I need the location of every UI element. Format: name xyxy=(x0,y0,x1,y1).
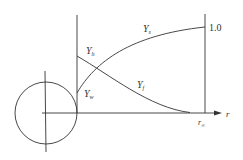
circle-vertical-axis xyxy=(45,71,46,152)
label-y-f: Yf xyxy=(137,79,146,91)
label-y-h: Yh xyxy=(86,45,95,57)
diagram-canvas: Ys Yh Yf Yw 1.0 r r∞ xyxy=(0,0,243,160)
label-y-w: Yw xyxy=(84,88,94,100)
curve-y-f xyxy=(77,56,190,113)
label-r-inf: r∞ xyxy=(198,118,205,128)
label-one: 1.0 xyxy=(209,22,222,33)
r-axis-arrow-icon xyxy=(214,111,222,116)
label-r-axis: r xyxy=(226,109,230,119)
label-y-s: Ys xyxy=(143,23,152,35)
